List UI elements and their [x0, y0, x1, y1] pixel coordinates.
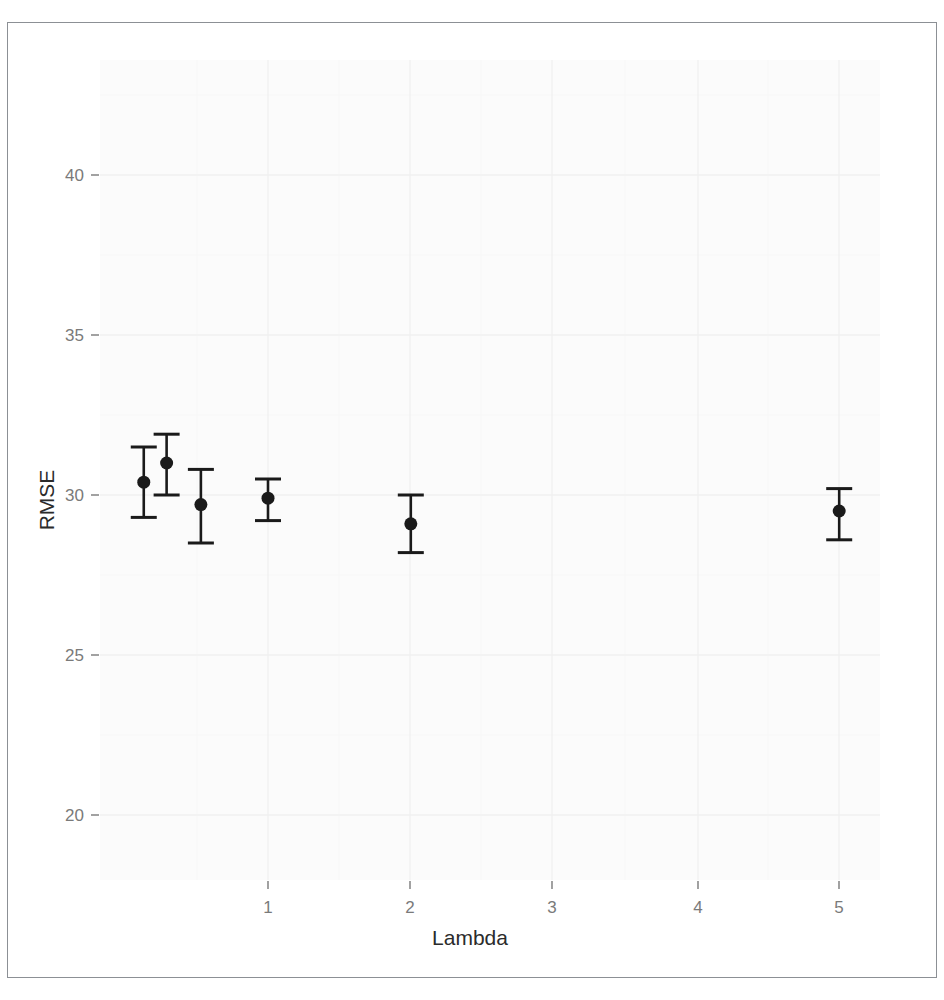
x-tick-label-4: 4: [693, 898, 702, 917]
data-point-marker: [160, 457, 173, 470]
x-axis-title: Lambda: [432, 926, 508, 949]
y-axis: 20 25 30 35 40: [65, 166, 99, 825]
data-point-marker: [404, 517, 417, 530]
figure-canvas: 20 25 30 35 40 1 2 3 4 5 Lambda RMSE: [0, 0, 944, 1000]
y-tick-label-20: 20: [65, 806, 84, 825]
data-point-marker: [137, 476, 150, 489]
x-tick-label-5: 5: [834, 898, 843, 917]
plot-panel-background: [100, 60, 880, 880]
rmse-vs-lambda-plot: 20 25 30 35 40 1 2 3 4 5 Lambda RMSE: [0, 0, 944, 1000]
y-tick-label-30: 30: [65, 486, 84, 505]
x-tick-label-1: 1: [263, 898, 272, 917]
data-point-marker: [833, 505, 846, 518]
y-tick-label-40: 40: [65, 166, 84, 185]
x-tick-label-3: 3: [547, 898, 556, 917]
x-tick-label-2: 2: [405, 898, 414, 917]
y-axis-tick-mark: [91, 175, 99, 815]
data-point-marker: [262, 492, 275, 505]
data-point-marker: [194, 498, 207, 511]
y-tick-label-35: 35: [65, 326, 84, 345]
x-axis: 1 2 3 4 5: [263, 881, 843, 917]
y-tick-label-25: 25: [65, 646, 84, 665]
x-axis-tick-mark: [268, 881, 839, 889]
y-axis-title: RMSE: [35, 470, 58, 531]
